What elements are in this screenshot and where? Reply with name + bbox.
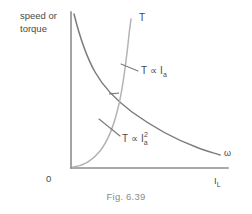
leader-line-linear [121, 64, 138, 71]
speed-curve-label: ω [224, 148, 231, 158]
annotation-square-relation: ∝ [131, 133, 138, 144]
x-axis-label: IL [214, 175, 221, 188]
motor-characteristic-chart: speed or torque 0 IL T ω T∝Ia T∝I2a [0, 0, 252, 214]
figure-caption: Fig. 6.39 [0, 191, 252, 202]
annotation-linear-subscript: a [163, 71, 167, 78]
annotation-square: T∝I2a [122, 131, 148, 146]
origin-label: 0 [46, 173, 51, 184]
annotation-linear: T∝Ia [141, 65, 167, 78]
y-axis-label-line2: torque [20, 23, 47, 34]
annotation-linear-relation: ∝ [150, 65, 157, 76]
y-axis-label-line1: speed or [20, 10, 57, 21]
torque-curve-label: T [139, 12, 145, 23]
annotation-linear-symbol: T [141, 65, 147, 76]
annotation-square-superscript: 2 [144, 131, 148, 138]
x-axis-label-subscript: L [217, 181, 221, 188]
annotation-square-subscript: a [144, 139, 148, 146]
annotation-square-symbol: T [122, 133, 128, 144]
figure-container: speed or torque 0 IL T ω T∝Ia T∝I2a Fig.… [0, 0, 252, 214]
